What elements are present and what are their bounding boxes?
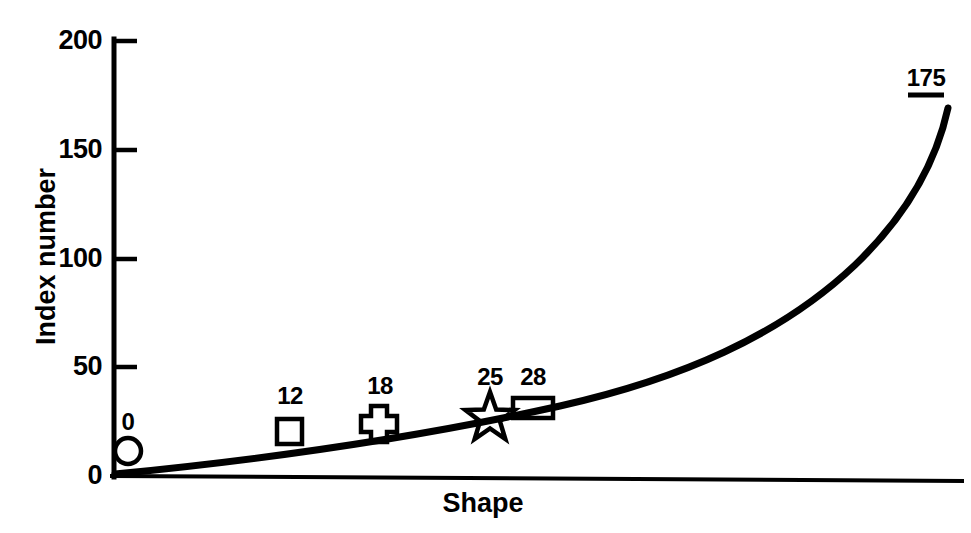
- marker-label-rectangle: 28: [520, 365, 546, 389]
- marker-label-square: 12: [277, 384, 303, 408]
- y-tick-label-150: 150: [36, 136, 102, 163]
- x-axis-title: Shape: [442, 490, 523, 517]
- marker-label-circle: 0: [122, 410, 135, 434]
- x-axis-line: [112, 476, 962, 481]
- endpoint-label-175: 175: [907, 66, 946, 90]
- marker-circle: [115, 438, 141, 464]
- marker-square: [277, 419, 302, 444]
- chart-canvas: [0, 0, 971, 533]
- y-tick-label-0: 0: [36, 462, 102, 489]
- marker-label-cross: 18: [367, 374, 393, 398]
- y-tick-label-200: 200: [36, 27, 102, 54]
- y-axis-title: Index number: [33, 168, 60, 345]
- marker-label-star: 25: [477, 365, 503, 389]
- y-tick-label-50: 50: [36, 353, 102, 380]
- marker-star: [466, 392, 515, 439]
- chart-figure: 200 150 100 50 0 Index number Shape 0 12…: [0, 0, 971, 533]
- y-axis-ticks: [114, 41, 137, 367]
